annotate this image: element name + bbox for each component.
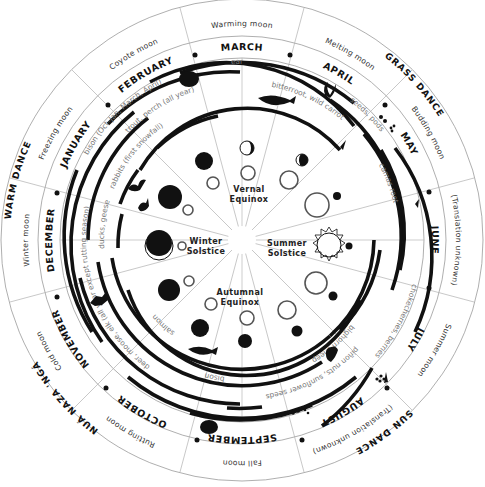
root-icon	[415, 199, 419, 208]
bison-icon	[179, 71, 199, 87]
new-moon-icon	[238, 334, 252, 348]
full-moon-icon	[241, 166, 255, 180]
full-moon-icon	[184, 276, 194, 286]
new-moon-icon	[191, 319, 209, 337]
autumnal-equinox-label: Autumnal	[217, 288, 264, 297]
svg-text:JUNE: JUNE	[429, 224, 441, 254]
new-moon-icon	[292, 326, 303, 337]
seasonal-round-diagram: GRASS DANCE SUN DANCE NUÁ NAZA 'NGÁ WARM…	[0, 0, 485, 487]
fish-icon	[258, 95, 296, 105]
full-moon-icon	[305, 193, 329, 217]
sun-icon	[313, 227, 345, 261]
moon-phase-icon	[296, 154, 308, 166]
ceremony-nua-naza-nga: NUÁ NAZA 'NGÁ	[29, 359, 100, 436]
svg-text:AUGUST: AUGUST	[319, 396, 366, 430]
svg-text:Warming moon: Warming moon	[0, 0, 242, 30]
svg-text:(Translation unknown): (Translation unknown)	[449, 194, 463, 287]
summer-solstice-label: Summer	[267, 239, 307, 248]
center-sunburst	[228, 226, 256, 254]
moon-phase-icon	[145, 230, 173, 260]
full-moon-icon	[205, 298, 217, 310]
svg-text:Equinox: Equinox	[230, 195, 269, 204]
new-moon-icon	[329, 292, 338, 301]
new-moon-icon	[195, 152, 213, 170]
full-moon-icon	[240, 311, 254, 325]
full-moon-icon	[178, 242, 186, 250]
full-moon-icon	[305, 272, 327, 294]
new-moon-icon	[158, 185, 182, 209]
svg-text:JULY: JULY	[405, 325, 428, 353]
svg-text:Equinox: Equinox	[221, 298, 260, 307]
new-moon-icon	[158, 279, 180, 301]
moon-phase-icon	[240, 141, 254, 155]
svg-text:Solstice: Solstice	[268, 249, 307, 258]
vernal-equinox-label: Vernal	[233, 185, 264, 194]
new-moon-icon	[346, 243, 353, 250]
svg-text:DECEMBER: DECEMBER	[43, 207, 57, 273]
svg-text:MARCH: MARCH	[0, 0, 239, 53]
svg-text:Solstice: Solstice	[187, 247, 226, 256]
bison-icon	[200, 420, 218, 434]
full-moon-icon	[280, 171, 298, 189]
new-moon-icon	[333, 192, 341, 200]
berries-icon	[375, 372, 388, 383]
svg-text:Winter moon: Winter moon	[21, 213, 32, 267]
sheep-icon	[326, 346, 338, 362]
full-moon-icon	[207, 177, 219, 189]
winter-solstice-label: Winter	[190, 237, 223, 246]
full-moon-icon	[183, 205, 193, 215]
full-moon-icon	[278, 301, 296, 319]
svg-text:ducks, geese: ducks, geese	[97, 198, 112, 249]
rabbit-icon	[138, 198, 149, 211]
